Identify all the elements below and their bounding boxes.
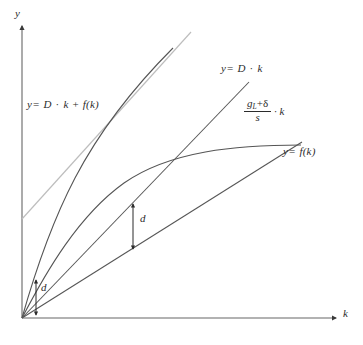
label-curve-fk: y= f(k) [283, 145, 316, 157]
fraction-k: k [280, 105, 285, 117]
x-axis-label: k [343, 307, 348, 319]
label-sum-D: D [43, 98, 51, 110]
gap-label-large-text: d [140, 212, 146, 224]
label-dk-D: D [237, 62, 245, 74]
diagram-canvas [0, 0, 363, 345]
fraction-denominator: s [252, 112, 262, 124]
label-line-gl-delta-over-s: gL+δ s · k [244, 97, 284, 123]
fraction: gL+δ s [244, 98, 271, 123]
line-d-k [22, 82, 249, 318]
label-fk-paren: (k) [303, 145, 316, 157]
line-gl-delta-over-s-k [22, 142, 302, 318]
label-dk-eq: = [226, 62, 234, 74]
label-sum-fk: (k) [86, 98, 99, 110]
y-axis-label: y [15, 7, 20, 19]
fraction-numerator: gL+δ [244, 98, 271, 112]
gap-label-small-text: d [41, 281, 47, 293]
numerator-delta: δ [263, 97, 268, 109]
solow-diagram-figure: y k y= D · k + f(k) y= D · k gL+δ s · k … [0, 0, 363, 345]
x-axis-label-text: k [343, 307, 348, 319]
label-dk-dot: · [249, 62, 255, 74]
label-dk-k: k [257, 62, 262, 74]
label-sum-eq: = [32, 98, 40, 110]
label-sum-plus: + [71, 98, 79, 110]
tangent-asymptote-line [22, 32, 191, 219]
fraction-expression: gL+δ s · k [244, 98, 284, 123]
fraction-dot: · [274, 105, 277, 117]
label-sum-k: k [63, 98, 68, 110]
gap-label-small: d [41, 281, 47, 293]
label-curve-dk-plus-fk: y= D · k + f(k) [27, 98, 99, 110]
label-fk-eq: = [288, 145, 296, 157]
fraction-tail: · k [271, 105, 284, 117]
gap-label-large: d [140, 212, 146, 224]
label-line-dk: y= D · k [221, 62, 262, 74]
label-sum-dot: · [55, 98, 61, 110]
y-axis-label-text: y [15, 7, 20, 19]
